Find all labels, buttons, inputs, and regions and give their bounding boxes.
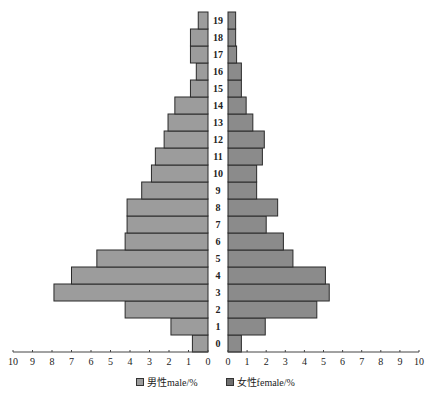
age-label: 1 [216,321,221,332]
x-tick-label-left: 1 [186,356,191,367]
male-bar [151,165,208,182]
female-bar [228,335,241,352]
x-tick-label-left: 9 [30,356,35,367]
male-bar [171,318,208,335]
female-bar [228,97,246,114]
age-label: 7 [216,219,221,230]
female-bar [228,284,329,301]
age-label: 11 [213,151,222,162]
male-bar [190,80,208,97]
female-bar [228,46,237,63]
female-bar [228,114,253,131]
age-label: 5 [216,253,221,264]
x-tick-label-right: 9 [397,356,402,367]
female-bar [228,199,278,216]
male-bar [155,148,208,165]
male-bar [97,250,208,267]
female-bar [228,216,266,233]
female-bar [228,301,317,318]
male-bar [168,114,208,131]
female-bar [228,267,325,284]
x-tick-label-left: 6 [89,356,94,367]
age-label: 12 [213,134,223,145]
female-bar [228,63,241,80]
x-tick-label-right: 6 [340,356,345,367]
x-tick-label-right: 4 [302,356,307,367]
age-label: 4 [216,270,221,281]
male-bar [196,63,208,80]
x-tick-label-left: 5 [108,356,113,367]
legend: 男性male/% 女性female/% [0,374,431,389]
x-tick-label-right: 1 [245,356,250,367]
female-bar [228,148,262,165]
female-bar [228,12,236,29]
female-bar [228,80,241,97]
age-label: 10 [213,168,223,179]
legend-item-female: 女性female/% [226,374,295,389]
female-bar [228,131,264,148]
male-bar [198,12,208,29]
age-label: 6 [216,236,221,247]
male-bar [190,46,208,63]
male-bar [164,131,208,148]
age-label: 8 [216,202,221,213]
age-label: 9 [216,185,221,196]
x-tick-label-left: 2 [167,356,172,367]
x-tick-label-right: 10 [414,356,424,367]
female-bar [228,318,265,335]
x-tick-label-right: 0 [226,356,231,367]
male-bars [54,12,208,352]
x-tick-label-right: 3 [283,356,288,367]
male-swatch-icon [136,378,144,386]
female-bars [228,12,329,352]
x-axes: 109876543210012345678910 [8,350,424,367]
x-tick-label-right: 5 [321,356,326,367]
x-tick-label-left: 3 [147,356,152,367]
x-tick-label-left: 7 [69,356,74,367]
male-bar [72,267,209,284]
age-label: 2 [216,304,221,315]
legend-male-label: 男性male/% [147,374,198,389]
female-bar [228,250,293,267]
x-tick-label-right: 2 [264,356,269,367]
age-label: 19 [213,15,223,26]
x-tick-label-left: 10 [8,356,18,367]
male-bar [142,182,208,199]
female-bar [228,233,283,250]
x-tick-label-left: 0 [206,356,211,367]
female-bar [228,29,236,46]
x-tick-label-left: 4 [128,356,133,367]
male-bar [127,216,208,233]
male-bar [190,29,208,46]
population-pyramid-chart: 012345678910111213141516171819 109876543… [0,0,431,398]
female-swatch-icon [226,378,234,386]
male-bar [125,233,208,250]
legend-female-label: 女性female/% [237,374,295,389]
age-labels: 012345678910111213141516171819 [213,15,223,349]
age-label: 13 [213,117,223,128]
age-label: 14 [213,100,223,111]
male-bar [125,301,208,318]
age-label: 18 [213,32,223,43]
male-bar [175,97,208,114]
age-label: 3 [216,287,221,298]
legend-item-male: 男性male/% [136,374,198,389]
x-tick-label-right: 8 [378,356,383,367]
age-label: 15 [213,83,223,94]
age-label: 16 [213,66,223,77]
x-tick-label-right: 7 [359,356,364,367]
x-tick-label-left: 8 [50,356,55,367]
age-label: 0 [216,338,221,349]
age-label: 17 [213,49,223,60]
male-bar [127,199,208,216]
male-bar [54,284,208,301]
female-bar [228,165,257,182]
female-bar [228,182,257,199]
male-bar [192,335,208,352]
